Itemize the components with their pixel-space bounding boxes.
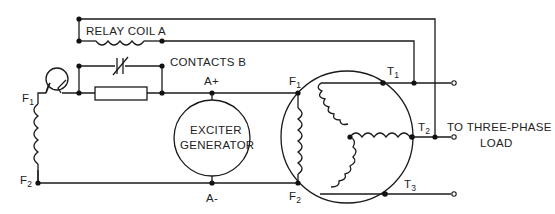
relay-coil-a-icon — [96, 41, 144, 45]
wye-windings-icon — [318, 83, 412, 194]
left-f2-label: F2 — [20, 174, 32, 189]
load-label-1: TO THREE-PHASE — [447, 121, 552, 133]
t1-label: T1 — [387, 65, 399, 80]
junction-dot — [432, 134, 437, 139]
a-minus-label: A- — [206, 192, 218, 204]
alternator-icon — [281, 71, 413, 203]
junction-dot — [76, 63, 81, 68]
exciter-generator-icon — [174, 100, 250, 176]
a-plus-label: A+ — [204, 75, 219, 87]
t1-output-terminal — [452, 81, 456, 85]
t2-label: T2 — [418, 121, 430, 136]
junction-dot — [76, 90, 81, 95]
alternator-field-coil-icon — [298, 108, 302, 174]
f1-terminal — [295, 90, 300, 95]
t3-label: T3 — [404, 178, 416, 193]
exciter-label-2: GENERATOR — [180, 139, 254, 151]
junction-dot — [159, 38, 164, 43]
resistor-icon — [95, 87, 147, 100]
junction-dot — [76, 38, 81, 43]
gen-f1-label: F1 — [289, 75, 301, 90]
junction-dot — [159, 63, 164, 68]
circuit-diagram: RELAY COIL A CONTACTS B A+ A- EXCITER GE… — [0, 0, 555, 214]
lamp-icon — [46, 68, 68, 93]
gen-f2-label: F2 — [289, 190, 301, 205]
relay-coil-label: RELAY COIL A — [86, 25, 166, 37]
f2-terminal — [295, 180, 300, 185]
t2-output-terminal — [452, 135, 456, 139]
load-label-2: LOAD — [480, 137, 513, 149]
junction-dot — [411, 80, 416, 85]
junction-dot — [35, 180, 40, 185]
left-f1-label: F1 — [22, 92, 34, 107]
junction-dot — [159, 90, 164, 95]
junction-dot — [76, 16, 81, 21]
t3-output-terminal — [452, 192, 456, 196]
contacts-label: CONTACTS B — [170, 56, 246, 68]
exciter-label-1: EXCITER — [190, 124, 242, 136]
